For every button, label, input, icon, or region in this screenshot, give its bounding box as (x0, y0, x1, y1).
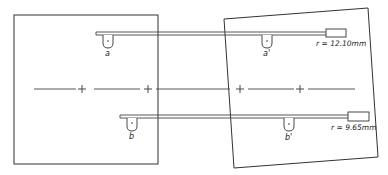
pivot-b-icon (127, 118, 137, 131)
pivot-a-prime-icon (262, 35, 272, 48)
pivot-a-icon (103, 35, 113, 48)
upper-rod-end-block (326, 29, 346, 37)
label-a-prime: a' (263, 49, 270, 58)
lower-rod (120, 115, 348, 118)
label-b-prime: b' (285, 133, 292, 142)
diagram-canvas: a a' b b' r = 12.10mm r = 9.65mm (0, 0, 388, 175)
label-a: a (105, 49, 110, 58)
radius-label-lower: r = 9.65mm (331, 123, 376, 132)
left-frame (14, 15, 158, 164)
radius-label-upper: r = 12.10mm (316, 39, 366, 48)
label-b: b (129, 132, 134, 141)
pivot-b-prime-icon (284, 118, 294, 131)
lower-rod-end-block (348, 112, 369, 121)
upper-rod (96, 32, 326, 35)
